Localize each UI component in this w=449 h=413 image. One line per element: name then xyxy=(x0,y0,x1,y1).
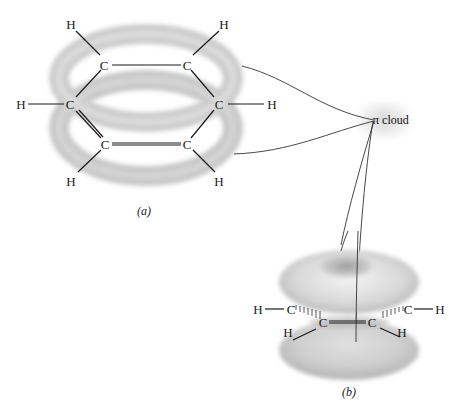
carbon-atom: C xyxy=(404,302,413,317)
leader-line-lower-ring xyxy=(234,121,374,154)
hydrogen-atom: H xyxy=(219,17,228,32)
carbon-atom: C xyxy=(183,58,192,73)
hydrogen-atom: H xyxy=(66,17,75,32)
panel-a-benzene: C C C C C C H H H H H H (a) xyxy=(16,17,276,218)
carbon-atom: C xyxy=(100,58,109,73)
hydrogen-atom: H xyxy=(214,174,223,189)
carbon-atom: C xyxy=(183,137,192,152)
carbon-atom: C xyxy=(101,137,110,152)
carbon-atom: C xyxy=(368,315,377,330)
panel-b-caption: (b) xyxy=(342,385,356,399)
carbon-atom: C xyxy=(319,315,328,330)
pi-cloud-diagram: C C C C C C H H H H H H (a) π cloud xyxy=(0,0,449,413)
hydrogen-atom: H xyxy=(66,174,75,189)
pi-cloud-label: π cloud xyxy=(373,113,409,127)
panel-b-lobes: C C C C H H H H (b) xyxy=(253,231,444,399)
leader-line-upper-ring xyxy=(242,66,374,120)
panel-a-caption: (a) xyxy=(137,204,151,218)
carbon-atom: C xyxy=(215,97,224,112)
hydrogen-atom: H xyxy=(267,97,276,112)
carbon-atom: C xyxy=(287,302,296,317)
carbon-atom: C xyxy=(66,97,75,112)
top-lobe-dimple xyxy=(320,255,372,277)
hydrogen-atom: H xyxy=(16,97,25,112)
hydrogen-atom: H xyxy=(435,302,444,317)
hydrogen-atom: H xyxy=(253,302,262,317)
hydrogen-atom: H xyxy=(283,325,292,340)
hydrogen-atom: H xyxy=(397,325,406,340)
leader-line-top-lobe xyxy=(341,121,374,245)
